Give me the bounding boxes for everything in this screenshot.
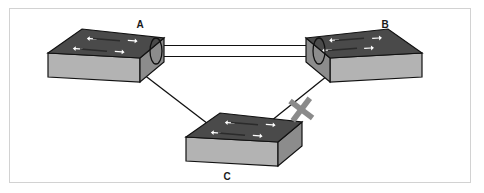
switch-a[interactable] [48, 29, 164, 82]
network-topology-svg [10, 9, 472, 184]
switch-c-label: C [217, 172, 237, 182]
link-a-c[interactable] [139, 71, 212, 127]
switch-b-label: B [375, 20, 395, 30]
blocked-link-x-marker [290, 98, 313, 121]
link-a-b[interactable] [148, 46, 330, 57]
diagram-canvas: A B C [0, 0, 484, 193]
switch-a-label: A [130, 20, 150, 30]
switch-b[interactable] [306, 29, 422, 82]
diagram-frame: A B C [9, 8, 471, 183]
